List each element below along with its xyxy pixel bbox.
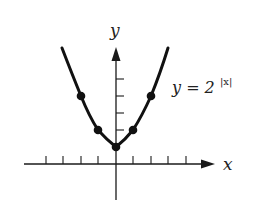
equation-base: y = 2 xyxy=(171,78,215,97)
data-point xyxy=(112,143,121,152)
equation-exponent: |x| xyxy=(220,76,232,88)
data-point xyxy=(147,92,156,101)
y-axis xyxy=(112,47,125,200)
data-point xyxy=(129,126,138,135)
equation-label: y = 2 |x| xyxy=(171,76,232,97)
x-axis-label: x xyxy=(223,154,233,174)
graph: y x y = 2 |x| xyxy=(0,0,254,210)
data-point xyxy=(77,92,86,101)
y-axis-label: y xyxy=(109,20,120,40)
y-axis-arrow-icon xyxy=(112,47,121,61)
x-axis xyxy=(24,156,215,169)
y-axis-ticks xyxy=(116,79,124,130)
x-axis-arrow-icon xyxy=(201,160,215,169)
data-point xyxy=(94,126,103,135)
